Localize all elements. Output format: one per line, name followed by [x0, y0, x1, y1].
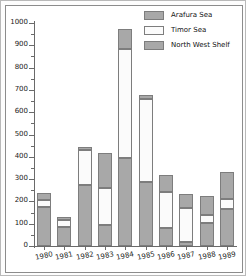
y-axis-tick-major: [29, 90, 34, 91]
y-axis-tick-label: 1000: [2, 19, 28, 26]
bar-segment-arafura-sea: [57, 217, 71, 221]
bar-segment-arafura-sea: [200, 196, 214, 215]
bar-segment-timor-sea: [37, 200, 51, 207]
y-axis-tick-label: 400: [2, 153, 28, 160]
bar-segment-north-west-shelf: [139, 182, 153, 246]
y-axis-tick-major: [29, 45, 34, 46]
y-axis-tick-major: [29, 135, 34, 136]
bar-segment-arafura-sea: [159, 175, 173, 192]
bar-segment-timor-sea: [200, 215, 214, 223]
y-axis-tick-major: [29, 201, 34, 202]
legend-label: North West Shelf: [171, 41, 230, 50]
bar-segment-arafura-sea: [78, 147, 92, 150]
bar-segment-arafura-sea: [37, 193, 51, 200]
legend-swatch: [144, 41, 164, 50]
y-axis-tick-label: 300: [2, 175, 28, 182]
y-axis-tick-label: 700: [2, 86, 28, 93]
bar-1982: [78, 1, 92, 276]
y-axis-tick-label: 100: [2, 220, 28, 227]
bar-segment-timor-sea: [220, 199, 234, 209]
legend-item: Arafura Sea: [141, 10, 237, 21]
legend-label: Timor Sea: [171, 26, 206, 35]
y-axis-tick-major: [29, 179, 34, 180]
y-axis-tick-minor: [31, 190, 34, 191]
y-axis-labels: 01002003004005006007008009001000: [1, 1, 28, 276]
bar-segment-timor-sea: [139, 99, 153, 182]
y-axis-tick-label: 800: [2, 64, 28, 71]
chart-legend: Arafura SeaTimor SeaNorth West Shelf: [141, 10, 237, 54]
y-axis-tick-major: [29, 23, 34, 24]
bar-segment-north-west-shelf: [37, 207, 51, 246]
bar-segment-arafura-sea: [139, 95, 153, 99]
chart-outer-frame: 01002003004005006007008009001000 1980198…: [0, 0, 246, 276]
bar-segment-timor-sea: [78, 150, 92, 185]
bar-segment-north-west-shelf: [179, 242, 193, 246]
bar-1984: [118, 1, 132, 276]
bar-segment-timor-sea: [98, 188, 112, 224]
bar-segment-north-west-shelf: [200, 223, 214, 246]
y-axis-tick-label: 600: [2, 108, 28, 115]
y-axis-tick-label: 0: [2, 242, 28, 249]
bar-segment-north-west-shelf: [118, 158, 132, 246]
bar-segment-timor-sea: [159, 192, 173, 228]
y-axis-tick-minor: [31, 168, 34, 169]
bar-segment-north-west-shelf: [220, 209, 234, 246]
y-axis-tick-major: [29, 224, 34, 225]
y-axis-tick-minor: [31, 34, 34, 35]
bar-1980: [37, 1, 51, 276]
y-axis-tick-label: 900: [2, 41, 28, 48]
y-axis-tick-major: [29, 68, 34, 69]
bar-segment-north-west-shelf: [57, 227, 71, 246]
bar-segment-arafura-sea: [118, 29, 132, 49]
legend-item: Timor Sea: [141, 25, 237, 36]
y-axis-tick-major: [29, 246, 34, 247]
bar-segment-timor-sea: [118, 49, 132, 158]
bar-segment-arafura-sea: [98, 153, 112, 188]
y-axis-tick-label: 500: [2, 131, 28, 138]
y-axis-tick-minor: [31, 235, 34, 236]
legend-item: North West Shelf: [141, 40, 237, 51]
y-axis-line: [34, 21, 35, 248]
bar-1983: [98, 1, 112, 276]
legend-swatch: [144, 26, 164, 35]
y-axis-tick-label: 200: [2, 197, 28, 204]
legend-swatch: [144, 11, 164, 20]
bar-segment-north-west-shelf: [159, 228, 173, 246]
y-axis-tick-major: [29, 157, 34, 158]
bar-segment-timor-sea: [57, 220, 71, 227]
y-axis-tick-minor: [31, 123, 34, 124]
y-axis-tick-minor: [31, 101, 34, 102]
y-axis-tick-minor: [31, 56, 34, 57]
y-axis-tick-major: [29, 112, 34, 113]
y-axis-tick-minor: [31, 146, 34, 147]
y-axis-tick-minor: [31, 79, 34, 80]
y-axis-tick-minor: [31, 213, 34, 214]
bar-segment-arafura-sea: [220, 172, 234, 198]
bar-segment-north-west-shelf: [78, 185, 92, 246]
bar-segment-north-west-shelf: [98, 225, 112, 246]
bar-segment-timor-sea: [179, 208, 193, 242]
legend-label: Arafura Sea: [171, 11, 212, 20]
bar-1981: [57, 1, 71, 276]
bar-segment-arafura-sea: [179, 194, 193, 208]
